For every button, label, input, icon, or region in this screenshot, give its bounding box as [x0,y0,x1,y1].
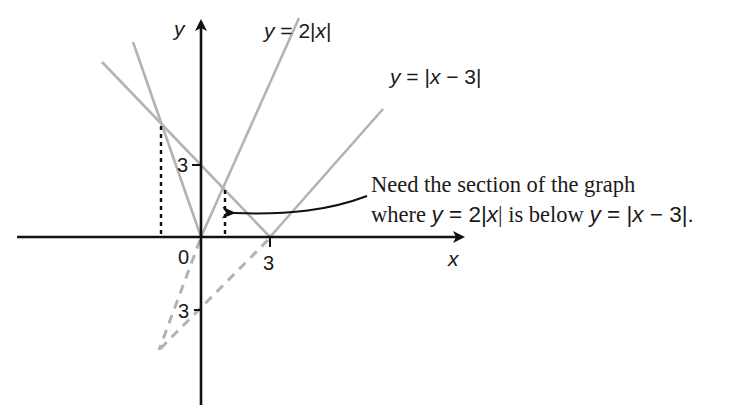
graph-diagram: y x 0 3 3 3 y = 2|x| y = |x − 3| Need th… [0,0,748,420]
annotation-arrow [234,196,367,213]
label-y-abs-x-minus-3: y = |x − 3| [388,65,481,88]
x-tick-label-3: 3 [263,252,274,274]
annotation-line-2: where y = 2|x| is below y = |x − 3|. [371,202,694,227]
y-tick-label-neg3: 3 [178,300,189,322]
dashed-line-x-minus-3-extension [159,240,268,350]
annotation-line-1: Need the section of the graph [371,172,635,197]
x-axis-label: x [447,247,460,270]
dashed-extensions [159,240,268,350]
curve-y-2abs-x [133,18,299,237]
y-axis-label: y [172,17,186,40]
curve-y-abs-x-minus-3 [102,62,383,237]
label-y-2abs-x: y = 2|x| [262,19,332,42]
origin-label: 0 [178,246,189,268]
y-tick-label-3: 3 [177,154,188,176]
